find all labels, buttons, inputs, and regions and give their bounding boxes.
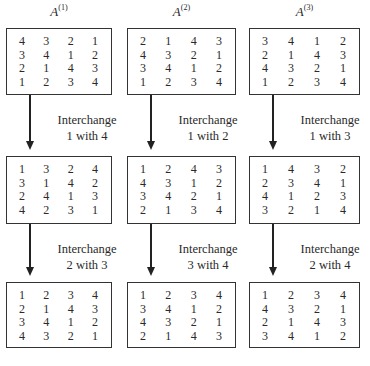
matrix-cell: 3 (65, 289, 77, 303)
matrix-cell: 1 (40, 177, 52, 191)
matrix-row: 3412 (259, 35, 349, 49)
matrix-cell: 3 (188, 76, 200, 90)
matrix-cell: 3 (65, 76, 77, 90)
matrix-cell: 2 (285, 76, 297, 90)
matrix-cell: 3 (89, 62, 101, 76)
matrix-row: 4123 (259, 190, 349, 204)
matrix-row: 3412 (259, 330, 349, 344)
matrix-cell: 4 (16, 330, 28, 344)
matrix-cell: 1 (337, 303, 349, 317)
matrix-cell: 4 (285, 163, 297, 177)
matrix-cell: 1 (311, 330, 323, 344)
matrix-cell: 2 (311, 303, 323, 317)
matrix-cell: 3 (213, 330, 225, 344)
matrix-cell: 3 (16, 49, 28, 63)
matrix-cell: 4 (213, 289, 225, 303)
matrix-cell: 2 (285, 289, 297, 303)
matrix-cell: 1 (259, 76, 271, 90)
matrix-cell: 1 (16, 289, 28, 303)
matrix-cell: 1 (89, 35, 101, 49)
matrix-cell: 1 (65, 316, 77, 330)
matrix-grid: 1324314224134231 (16, 163, 101, 217)
matrix-cell: 4 (162, 190, 174, 204)
matrix-row: 2143 (137, 35, 225, 49)
matrix-cell: 1 (16, 76, 28, 90)
matrix-cell: 3 (285, 177, 297, 191)
arrow-head (269, 141, 277, 150)
matrix-grid: 1243431234212134 (137, 163, 225, 217)
matrix-cell: 4 (137, 49, 149, 63)
matrix-cell: 3 (137, 303, 149, 317)
interchange-label-line1: Interchange (290, 241, 370, 257)
matrix-cell: 2 (213, 303, 225, 317)
matrix-title: A(2) (152, 3, 212, 20)
matrix-row: 2413 (16, 190, 101, 204)
arrow-shaft (29, 224, 30, 268)
matrix-row: 1432 (259, 163, 349, 177)
matrix-cell: 2 (311, 62, 323, 76)
matrix-cell: 3 (162, 316, 174, 330)
matrix-cell: 3 (188, 204, 200, 218)
matrix-row: 3412 (16, 49, 101, 63)
matrix-cell: 4 (16, 204, 28, 218)
matrix-cell: 2 (65, 163, 77, 177)
matrix-cell: 2 (40, 289, 52, 303)
matrix-row: 4321 (16, 35, 101, 49)
matrix-cell: 1 (65, 49, 77, 63)
matrix-row: 1234 (137, 76, 225, 90)
matrix-cell: 4 (65, 303, 77, 317)
matrix-cell: 1 (137, 289, 149, 303)
matrix-cell: 4 (188, 35, 200, 49)
matrix-cell: 4 (337, 289, 349, 303)
matrix-cell: 4 (40, 49, 52, 63)
matrix-cell: 4 (65, 177, 77, 191)
matrix-cell: 1 (259, 163, 271, 177)
matrix-cell: 4 (40, 316, 52, 330)
matrix-cell: 2 (337, 330, 349, 344)
matrix-cell: 3 (137, 62, 149, 76)
matrix-cell: 4 (259, 190, 271, 204)
matrix-cell: 2 (137, 35, 149, 49)
matrix-row: 2143 (137, 330, 225, 344)
matrix-cell: 1 (188, 62, 200, 76)
matrix-cell: 4 (311, 177, 323, 191)
matrix-grid: 1234214334124321 (16, 289, 101, 343)
matrix-row: 3421 (137, 190, 225, 204)
matrix-cell: 3 (337, 316, 349, 330)
matrix-cell: 3 (259, 204, 271, 218)
matrix-box: 1432234141233214 (249, 156, 360, 224)
matrix-cell: 2 (188, 190, 200, 204)
matrix-cell: 4 (311, 316, 323, 330)
matrix-cell: 4 (89, 76, 101, 90)
interchange-label-line1: Interchange (168, 112, 248, 128)
matrix-title-superscript: (1) (58, 3, 67, 12)
matrix-row: 2134 (137, 204, 225, 218)
matrix-cell: 4 (89, 289, 101, 303)
matrix-cell: 3 (162, 177, 174, 191)
matrix-cell: 1 (285, 190, 297, 204)
matrix-cell: 3 (259, 330, 271, 344)
matrix-cell: 1 (40, 62, 52, 76)
matrix-grid: 1432234141233214 (259, 163, 349, 217)
arrow-shaft (150, 224, 151, 268)
matrix-cell: 4 (65, 62, 77, 76)
matrix-cell: 2 (89, 177, 101, 191)
matrix-cell: 2 (65, 330, 77, 344)
matrix-row: 3412 (137, 303, 225, 317)
matrix-row: 4321 (16, 330, 101, 344)
matrix-cell: 1 (188, 177, 200, 191)
matrix-cell: 2 (89, 49, 101, 63)
matrix-box: 2143432134121234 (127, 28, 236, 95)
matrix-title-superscript: (2) (181, 3, 190, 12)
matrix-title-superscript: (3) (304, 3, 313, 12)
interchange-label-line2: 3 with 4 (168, 257, 248, 273)
interchange-label-line2: 1 with 3 (290, 128, 370, 144)
matrix-cell: 1 (213, 49, 225, 63)
matrix-cell: 4 (259, 62, 271, 76)
matrix-row: 2143 (16, 62, 101, 76)
matrix-cell: 2 (311, 190, 323, 204)
interchange-label-line1: Interchange (290, 112, 370, 128)
matrix-cell: 3 (337, 190, 349, 204)
matrix-cell: 1 (137, 163, 149, 177)
matrix-cell: 4 (337, 204, 349, 218)
